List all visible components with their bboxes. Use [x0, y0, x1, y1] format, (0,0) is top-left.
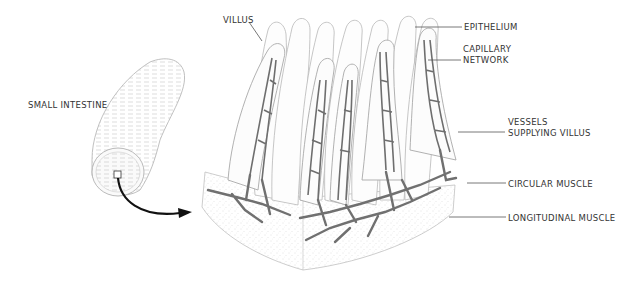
small-intestine-tube	[92, 59, 185, 196]
label-epithelium: EPITHELIUM	[464, 22, 518, 32]
sample-box	[114, 171, 121, 178]
label-circular-muscle: CIRCULAR MUSCLE	[508, 179, 593, 189]
label-capillary-network-2: NETWORK	[463, 55, 509, 65]
label-small-intestine: SMALL INTESTINE	[28, 100, 107, 110]
label-vessels-1: VESSELS	[508, 117, 548, 127]
label-longitudinal-muscle: LONGITUDINAL MUSCLE	[508, 213, 615, 223]
label-capillary-network-1: CAPILLARY	[463, 44, 511, 54]
label-vessels-2: SUPPLYING VILLUS	[508, 128, 591, 138]
villus-diagram	[0, 0, 618, 288]
label-villus: VILLUS	[223, 15, 254, 25]
